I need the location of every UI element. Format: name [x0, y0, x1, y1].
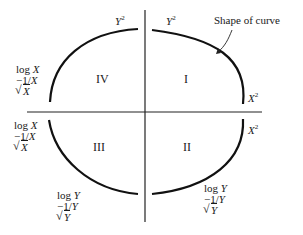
annotation-arrow — [218, 30, 232, 52]
sqrt-symbol: Y — [204, 205, 217, 216]
quadrant-label-II: II — [183, 140, 191, 155]
curve-quadrant-III — [49, 120, 138, 194]
curve-quadrant-IV — [50, 29, 138, 102]
label-x-squared-upper: X2 — [248, 90, 258, 104]
curve-quadrant-II — [152, 119, 243, 194]
quadrant-label-IV: IV — [96, 72, 109, 87]
label-y-squared-left: Y2 — [115, 13, 125, 27]
sqrt-symbol: Y — [57, 212, 70, 223]
label-stack-left-upper: log X −1/X X — [16, 64, 40, 97]
sqrt-symbol: X — [16, 86, 30, 97]
transformation-diagram — [0, 0, 303, 235]
curve-quadrant-I — [152, 30, 243, 104]
label-stack-bottom-right: log Y −1/Y Y — [204, 183, 227, 216]
label-stack-bottom-left: log Y −1/Y Y — [57, 190, 80, 223]
label-y-squared-right: Y2 — [166, 13, 176, 27]
label-x-squared-lower: X2 — [248, 122, 258, 136]
quadrant-label-III: III — [93, 140, 105, 155]
annotation-label: Shape of curve — [214, 15, 280, 26]
label-stack-left-lower: log X −1/X X — [14, 120, 38, 153]
sqrt-symbol: X — [14, 142, 28, 153]
quadrant-label-I: I — [184, 72, 188, 87]
